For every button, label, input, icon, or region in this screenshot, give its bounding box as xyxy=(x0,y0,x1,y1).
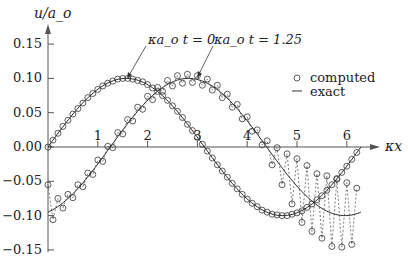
x-tick-label: 5 xyxy=(293,128,301,143)
data-point-marker-icon xyxy=(224,91,230,97)
y-tick-label: 0.05 xyxy=(13,105,42,120)
legend-computed-marker-icon xyxy=(294,75,300,81)
data-point-marker-icon xyxy=(179,80,185,86)
data-point-marker-icon xyxy=(189,80,195,86)
data-point-marker-icon xyxy=(150,97,156,103)
legend-computed-label: computed xyxy=(310,70,375,85)
x-ticks: 123456 xyxy=(94,128,351,147)
annotation-t125-arrowhead-icon xyxy=(197,71,202,78)
y-tick-label: −0.10 xyxy=(2,208,42,223)
annotation-t125: κa_o t = 1.25 xyxy=(213,32,302,47)
y-tick-label: 0.15 xyxy=(13,36,42,51)
data-point-marker-icon xyxy=(140,106,146,112)
data-point-marker-icon xyxy=(165,77,171,83)
y-tick-label: −0.15 xyxy=(2,242,42,257)
y-axis-arrow-icon xyxy=(45,24,51,34)
legend-exact-label: exact xyxy=(310,84,346,99)
y-axis-label: u/a_o xyxy=(34,5,72,22)
x-axis-label: κx xyxy=(384,138,402,154)
x-tick-label: 2 xyxy=(143,128,151,143)
x-tick-label: 4 xyxy=(243,128,251,143)
legend: computed exact xyxy=(292,70,375,99)
computed-t125-dashed-link xyxy=(48,74,357,247)
annotation-t125-arrow xyxy=(198,46,213,76)
data-point-marker-icon xyxy=(234,101,240,107)
annotation-t0: κa_o t = 0 xyxy=(147,32,215,47)
chart-container: u/a_o κx 0.150.100.050.00−0.05−0.10−0.15… xyxy=(0,0,408,268)
y-tick-label: −0.05 xyxy=(2,173,42,188)
x-tick-label: 6 xyxy=(343,128,351,143)
annotations: κa_o t = 0 κa_o t = 1.25 xyxy=(127,32,302,79)
y-tick-label: 0.10 xyxy=(13,70,42,85)
data-point-marker-icon xyxy=(80,184,86,190)
y-ticks: 0.150.100.050.00−0.05−0.10−0.15 xyxy=(2,36,54,257)
y-tick-label: 0.00 xyxy=(13,139,42,154)
x-tick-label: 1 xyxy=(94,128,102,143)
plot-area: u/a_o κx 0.150.100.050.00−0.05−0.10−0.15… xyxy=(0,0,408,268)
data-point-marker-icon xyxy=(264,138,270,144)
annotation-t0-arrow xyxy=(128,46,146,77)
data-point-marker-icon xyxy=(269,162,275,168)
x-axis-arrow-icon xyxy=(370,144,380,150)
